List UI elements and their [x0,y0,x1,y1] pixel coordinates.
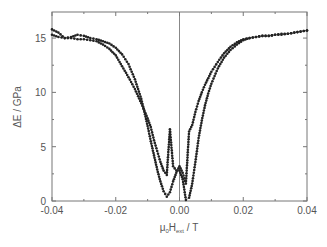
x-axis-label: μ0Hext / T [160,222,199,234]
chart: -0.04-0.020.000.020.04 051015 ΔE / GPa μ… [0,0,327,247]
x-tick-label: 0.02 [234,205,254,216]
x-tick-label: -0.02 [104,205,127,216]
y-tick-label: 15 [35,33,47,44]
x-tick-label: 0.00 [170,205,190,216]
y-tick-label: 10 [35,87,47,98]
y-axis-ticks: 051015 [35,33,307,207]
y-tick-label: 5 [40,142,46,153]
y-axis-label: ΔE / GPa [12,86,23,128]
x-tick-label: 0.04 [297,205,317,216]
y-tick-label: 0 [40,196,46,207]
x-axis-ticks: -0.04-0.020.000.020.04 [41,12,318,216]
